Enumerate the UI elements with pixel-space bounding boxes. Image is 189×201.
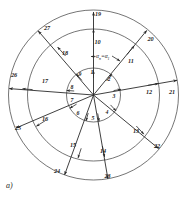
label-inner-9: 9 <box>79 71 82 77</box>
label-mid-13: 13 <box>133 127 139 134</box>
spoke-2 <box>94 80 178 95</box>
mid-arrow-5 <box>78 148 81 158</box>
spoke-1 <box>94 30 147 95</box>
label-outer-21: 21 <box>168 88 175 95</box>
label-outer-25: 25 <box>14 124 21 131</box>
spoke-3 <box>94 95 159 149</box>
spoke-8 <box>38 31 93 95</box>
label-inner-3: 3 <box>112 93 116 99</box>
label-inner-8: 8 <box>71 84 74 90</box>
label-mid-17: 17 <box>42 77 49 84</box>
label-outer-22: 22 <box>153 142 160 149</box>
label-outer-26: 26 <box>10 71 18 78</box>
label-outer-19: 19 <box>95 10 101 17</box>
figure-caption: a) <box>6 181 13 190</box>
label-outer-20: 20 <box>147 35 154 42</box>
label-outer-24: 24 <box>53 167 60 174</box>
polar-spoke-diagram: αn=α1 1 2 3 4 5 6 7 8 9 10 11 12 13 14 1… <box>0 0 189 201</box>
label-inner-2: 2 <box>107 76 111 82</box>
label-mid-18: 18 <box>62 49 68 56</box>
label-mid-14: 14 <box>100 147 106 154</box>
label-inner-1: 1 <box>91 69 94 75</box>
spoke-4 <box>94 95 108 179</box>
angle-leader-right <box>112 56 120 61</box>
label-inner-6: 6 <box>77 110 80 116</box>
label-inner-4: 4 <box>105 109 109 115</box>
label-inner-5: 5 <box>92 115 95 121</box>
label-inner-7: 7 <box>71 97 75 103</box>
angle-sub-2: 1 <box>108 57 110 61</box>
label-mid-12: 12 <box>146 88 152 95</box>
mid-arrow-2 <box>148 84 158 86</box>
svg-text:αn=α1: αn=α1 <box>96 53 110 61</box>
angle-annotation: αn=α1 <box>96 53 110 61</box>
label-mid-16: 16 <box>42 115 49 122</box>
label-mid-10: 10 <box>95 38 101 45</box>
label-mid-11: 11 <box>128 57 134 64</box>
label-outer-23: 23 <box>104 172 111 179</box>
mid-arrow-1 <box>127 46 134 55</box>
spoke-7 <box>9 89 93 95</box>
middle-ring-arrow-group <box>23 29 159 158</box>
label-mid-15: 15 <box>70 141 76 148</box>
label-outer-27: 27 <box>43 24 51 31</box>
in-arrow-7 <box>67 90 75 91</box>
